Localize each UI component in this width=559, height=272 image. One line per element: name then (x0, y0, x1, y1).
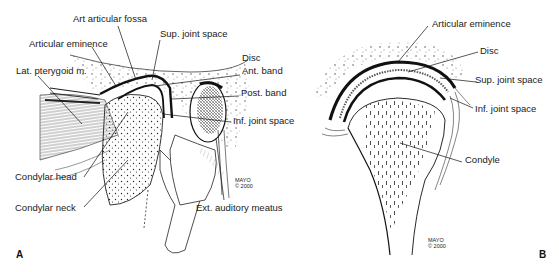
label-inf-joint-space-b: Inf. joint space (475, 104, 536, 114)
label-disc-a: Disc (242, 53, 260, 63)
panel-letter-a: A (16, 250, 23, 260)
label-articular-eminence-a: Articular eminence (29, 39, 108, 49)
panel-letter-b: B (539, 250, 546, 260)
label-ant-band: Ant. band (242, 66, 283, 76)
label-articular-eminence-b: Articular eminence (432, 19, 511, 29)
credit-b-line2: © 2000 (428, 244, 446, 250)
label-lat-pterygoid: Lat. pterygoid m. (16, 66, 87, 76)
credit-a: MAYO © 2000 (235, 178, 253, 190)
label-inf-joint-space-a: Inf. joint space (233, 116, 294, 126)
label-condylar-neck: Condylar neck (15, 203, 76, 213)
label-disc-b: Disc (480, 46, 498, 56)
tmj-figure: Art articular fossa Sup. joint space Art… (0, 0, 559, 272)
label-post-band: Post. band (241, 88, 286, 98)
credit-b: MAYO © 2000 (428, 238, 446, 250)
label-ext-auditory-meatus: Ext. auditory meatus (196, 203, 283, 213)
label-sup-joint-space-b: Sup. joint space (475, 75, 543, 85)
label-condyle: Condyle (465, 155, 500, 165)
label-art-articular-fossa: Art articular fossa (73, 14, 147, 24)
credit-a-line2: © 2000 (235, 184, 253, 190)
label-condylar-head: Condylar head (15, 172, 77, 182)
label-sup-joint-space-a: Sup. joint space (160, 29, 228, 39)
